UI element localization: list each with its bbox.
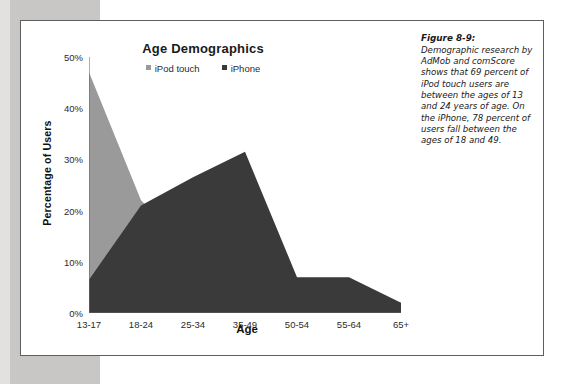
y-tick-label: 20% bbox=[43, 205, 83, 216]
x-axis-title: Age bbox=[89, 323, 405, 335]
y-tick-label: 30% bbox=[43, 154, 83, 165]
area-series-iphone bbox=[89, 152, 401, 313]
y-tick-label: 10% bbox=[43, 256, 83, 267]
chart-title: Age Demographics bbox=[33, 41, 373, 56]
book-page: Age Demographics iPod touch iPhone Perce… bbox=[0, 0, 568, 384]
plot-area: 0%10%20%30%40%50%13-1718-2425-3435-4950-… bbox=[89, 57, 401, 313]
figure-frame: Age Demographics iPod touch iPhone Perce… bbox=[20, 20, 544, 356]
page-margin-edge bbox=[0, 0, 10, 384]
plot-svg bbox=[89, 57, 401, 313]
figure-caption-body: Demographic research by AdMob and comSco… bbox=[421, 45, 533, 147]
y-tick-label: 40% bbox=[43, 103, 83, 114]
y-tick-label: 0% bbox=[43, 308, 83, 319]
y-tick-label: 50% bbox=[43, 52, 83, 63]
age-demographics-chart: Age Demographics iPod touch iPhone Perce… bbox=[33, 27, 405, 349]
figure-caption-label: Figure 8-9: bbox=[421, 33, 533, 45]
figure-caption: Figure 8-9: Demographic research by AdMo… bbox=[421, 33, 533, 147]
